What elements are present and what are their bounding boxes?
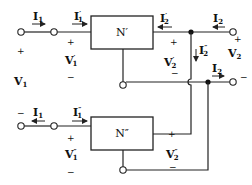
label-v2-double-prime: V″2: [165, 147, 179, 162]
label-i2-prime: I′2: [160, 11, 169, 26]
label-v1: V1: [13, 75, 28, 89]
sign-v2-minus: −: [240, 72, 248, 82]
sign-v2-prime-minus: −: [171, 68, 179, 78]
sign-v2-plus: +: [234, 34, 242, 44]
terminal-n-double-prime-port1-minus: [120, 167, 126, 173]
network-n-prime-label: N′: [116, 26, 129, 39]
network-n-double-prime-label: N″: [115, 127, 129, 140]
circuit-diagram: N′ N″ I1 I′1 I′2 I2 I″2 I2 V2 V1: [0, 0, 252, 185]
sign-v2-prime-plus: +: [170, 37, 178, 47]
sign-v1-prime-minus: −: [67, 72, 75, 82]
sign-v1-double-prime-plus: +: [67, 133, 75, 143]
terminal-port2-minus: [230, 79, 236, 85]
label-v1-double-prime: V″1: [64, 147, 78, 162]
sign-v2-double-prime-plus: +: [168, 129, 176, 139]
wire-i2pp-branch: [153, 32, 191, 134]
label-v1-prime: V′1: [64, 53, 77, 68]
terminal-n-prime-port1-plus: [51, 29, 57, 35]
label-v2: V2: [227, 47, 242, 61]
label-i2-top: I2: [213, 12, 223, 26]
terminal-n-prime-port1-minus: [120, 82, 126, 88]
label-i1-prime: I′1: [74, 9, 83, 24]
sign-v1-double-prime-minus: −: [67, 167, 75, 177]
sign-v1-plus: +: [17, 46, 25, 56]
terminal-port1-minus: [18, 123, 24, 129]
label-i1-top: I1: [33, 10, 43, 24]
terminal-n-double-prime-port1-plus: [51, 123, 57, 129]
sign-v1-prime-plus: +: [67, 37, 75, 47]
terminal-port1-plus: [18, 29, 24, 35]
label-i2-double-prime: I″2: [199, 43, 208, 58]
label-i1-double-prime: I″1: [73, 105, 82, 120]
sign-v2-double-prime-minus: −: [169, 162, 177, 172]
sign-port1-minus: −: [17, 108, 25, 118]
label-i1-bottom: I1: [33, 106, 43, 120]
label-i2-mid: I2: [212, 62, 222, 76]
